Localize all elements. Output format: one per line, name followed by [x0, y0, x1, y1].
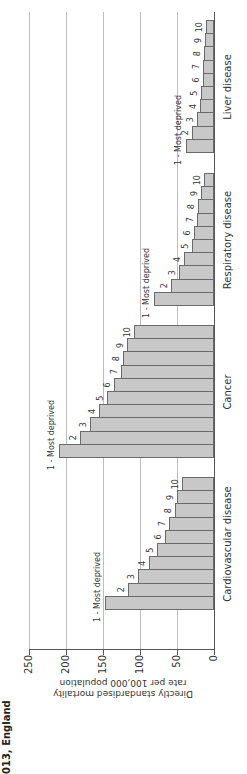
bar-respiratory-disease-decile-1: [154, 292, 214, 306]
decile-label: 4: [189, 99, 198, 113]
x-axis-baseline: [214, 12, 215, 650]
decile-label: 7: [158, 517, 167, 531]
decile-label: 6: [183, 226, 192, 240]
bar-respiratory-disease-decile-3: [179, 265, 214, 279]
decile-label: 4: [138, 556, 147, 570]
gridline-200: [66, 12, 67, 650]
decile-label: 5: [190, 86, 199, 100]
decile-label: 3: [127, 570, 136, 584]
decile-label: 6: [154, 530, 163, 544]
decile-label: 8: [187, 200, 196, 214]
gridline-150: [103, 12, 104, 650]
decile-label: 2: [181, 126, 190, 140]
bar-liver-disease-decile-10: [206, 20, 214, 34]
bar-cancer-decile-6: [114, 378, 214, 392]
decile-label: 3: [186, 113, 195, 127]
category-label: Cardiovascular disease: [222, 478, 234, 610]
bar-cardiovascular-disease-decile-7: [169, 517, 214, 531]
decile-label: 5: [146, 543, 155, 557]
bar-respiratory-disease-decile-4: [184, 252, 214, 266]
bar-liver-disease-decile-7: [203, 60, 214, 74]
decile-label: 3: [168, 266, 177, 280]
bar-respiratory-disease-decile-2: [171, 279, 214, 293]
category-label: Liver disease: [222, 21, 234, 153]
bar-cancer-decile-2: [80, 431, 214, 445]
bar-liver-disease-decile-1: [186, 139, 214, 153]
bar-respiratory-disease-decile-10: [204, 173, 214, 187]
tick-label: 250: [24, 655, 34, 695]
decile-label: 9: [190, 186, 199, 200]
decile-label: 5: [181, 239, 190, 253]
decile-label: 8: [164, 504, 173, 518]
decile-label: 8: [193, 47, 202, 61]
bar-liver-disease-decile-3: [197, 112, 214, 126]
decile-label: 10: [193, 173, 202, 187]
bar-respiratory-disease-decile-7: [197, 213, 214, 227]
bar-liver-disease-decile-5: [201, 86, 214, 100]
bar-liver-disease-decile-8: [204, 46, 214, 60]
decile-label: 7: [110, 365, 119, 379]
chart-title: 013, England: [0, 700, 13, 774]
gridline-250: [29, 12, 30, 650]
bar-cardiovascular-disease-decile-2: [128, 583, 214, 597]
decile-label: 9: [194, 33, 203, 47]
most-deprived-label: 1 - Most deprived: [142, 248, 151, 318]
decile-label: 9: [116, 338, 125, 352]
bar-cardiovascular-disease-decile-5: [157, 543, 214, 557]
bar-liver-disease-decile-2: [192, 126, 214, 140]
decile-label: 5: [96, 391, 105, 405]
bar-respiratory-disease-decile-8: [198, 199, 214, 213]
decile-label: 10: [123, 325, 132, 339]
decile-label: 9: [166, 490, 175, 504]
bar-liver-disease-decile-9: [205, 33, 214, 47]
tick-label: 0: [209, 655, 219, 695]
category-label: Cancer: [222, 326, 234, 458]
bar-cancer-decile-8: [123, 351, 214, 365]
decile-label: 6: [103, 378, 112, 392]
decile-label: 4: [173, 252, 182, 266]
bar-liver-disease-decile-6: [203, 73, 214, 87]
bar-cardiovascular-disease-decile-1: [105, 596, 214, 610]
bar-cardiovascular-disease-decile-3: [138, 569, 214, 583]
bar-cardiovascular-disease-decile-9: [177, 490, 214, 504]
decile-label: 2: [69, 431, 78, 445]
bar-respiratory-disease-decile-9: [201, 186, 214, 200]
bar-liver-disease-decile-4: [200, 99, 214, 113]
bar-cancer-decile-9: [127, 338, 214, 352]
bar-cardiovascular-disease-decile-10: [182, 477, 214, 491]
most-deprived-label: 1 - Most deprived: [93, 552, 102, 622]
bar-cancer-decile-3: [90, 417, 214, 431]
bar-cancer-decile-1: [59, 444, 214, 458]
decile-label: 8: [112, 352, 121, 366]
bar-cardiovascular-disease-decile-8: [175, 503, 214, 517]
decile-label: 3: [79, 418, 88, 432]
bar-cancer-decile-7: [121, 365, 214, 379]
bar-cancer-decile-10: [134, 325, 214, 339]
bar-cardiovascular-disease-decile-4: [149, 556, 214, 570]
decile-label: 10: [195, 20, 204, 34]
decile-label: 10: [171, 477, 180, 491]
bar-cardiovascular-disease-decile-6: [165, 530, 214, 544]
decile-label: 2: [160, 279, 169, 293]
bar-cancer-decile-4: [99, 404, 214, 418]
bar-respiratory-disease-decile-5: [192, 239, 214, 253]
category-label: Respiratory disease: [222, 174, 234, 306]
bar-cancer-decile-5: [107, 391, 214, 405]
y-axis-line: [29, 649, 215, 650]
bar-respiratory-disease-decile-6: [194, 226, 214, 240]
y-axis-label: Directly standardised mortality rate per…: [43, 677, 203, 699]
decile-label: 6: [192, 73, 201, 87]
decile-label: 7: [192, 60, 201, 74]
decile-label: 2: [117, 583, 126, 597]
most-deprived-label: 1 - Most deprived: [47, 400, 56, 470]
decile-label: 4: [88, 404, 97, 418]
decile-label: 7: [186, 213, 195, 227]
